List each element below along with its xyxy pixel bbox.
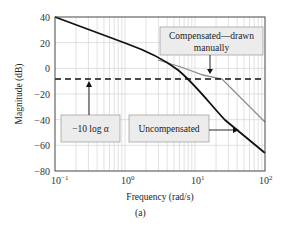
x-axis-label: Frequency (rad/s)	[126, 192, 193, 203]
svg-text:10−1: 10−1	[51, 174, 69, 186]
svg-text:−40: −40	[34, 115, 50, 126]
uncompensated-annotation: Uncompensated	[129, 115, 239, 142]
minus-10-log-alpha-annotation: −10 log α	[61, 81, 120, 142]
y-axis-label: Magnitude (dB)	[14, 64, 25, 125]
svg-text:101: 101	[191, 174, 205, 186]
svg-text:0: 0	[45, 63, 50, 74]
magnitude-plot: Compensated—drawn manually −10 log α Unc…	[0, 0, 289, 233]
svg-text:102: 102	[259, 174, 273, 186]
svg-text:−60: −60	[34, 140, 50, 151]
figure-caption: (a)	[135, 208, 146, 218]
compensated-annotation: Compensated—drawn manually	[160, 27, 263, 74]
arrow-right-icon	[233, 127, 239, 133]
svg-text:−80: −80	[34, 166, 50, 177]
svg-text:20: 20	[40, 38, 50, 49]
y-axis-ticks: 40 20 0 −20 −40 −60 −80	[34, 12, 50, 177]
minus-10-log-alpha-label: −10 log α	[72, 124, 109, 134]
svg-text:100: 100	[121, 174, 135, 186]
arrow-down-icon	[207, 69, 213, 74]
arrow-up-icon	[86, 81, 92, 87]
svg-text:40: 40	[40, 12, 50, 23]
svg-text:−20: −20	[34, 89, 50, 100]
compensated-label-line1: Compensated—drawn	[169, 31, 254, 41]
compensated-label-line2: manually	[194, 43, 230, 53]
uncompensated-label: Uncompensated	[138, 124, 199, 134]
x-axis-ticks: 10−1 100 101 102	[51, 174, 273, 186]
